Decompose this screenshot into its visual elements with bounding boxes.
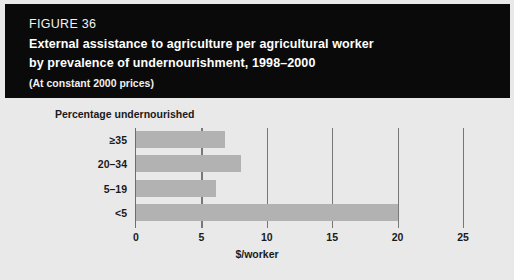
bar-category-label: 5–19 xyxy=(0,178,127,200)
figure-title-line-1: External assistance to agriculture per a… xyxy=(29,37,374,51)
figure-title-line-2: by prevalence of undernourishment, 1998–… xyxy=(29,56,315,70)
x-tick-label: 15 xyxy=(312,231,352,243)
figure-subtitle-label: (At constant 2000 prices) xyxy=(29,77,154,89)
chart-plot-area: Percentage undernourished ≥3520–345–19<5… xyxy=(0,98,514,280)
x-axis-title: $/worker xyxy=(0,248,514,260)
bar xyxy=(136,131,225,148)
bar-category-label: ≥35 xyxy=(0,129,127,151)
bar-row: 20–34 xyxy=(0,153,514,175)
bar-row: ≥35 xyxy=(0,129,514,151)
figure-container: FIGURE 36 External assistance to agricul… xyxy=(0,0,514,280)
x-tick-label: 20 xyxy=(378,231,418,243)
x-tick-label: 25 xyxy=(443,231,483,243)
figure-number-label: FIGURE 36 xyxy=(29,17,96,31)
bar xyxy=(136,180,216,197)
x-tick-label: 10 xyxy=(247,231,287,243)
bar-category-label: 20–34 xyxy=(0,153,127,175)
bar-category-label: <5 xyxy=(0,202,127,224)
bar-row: <5 xyxy=(0,202,514,224)
bar xyxy=(136,204,398,221)
x-tick-label: 0 xyxy=(116,231,156,243)
bar-row: 5–19 xyxy=(0,178,514,200)
y-axis-title: Percentage undernourished xyxy=(55,108,194,120)
bar xyxy=(136,155,241,172)
figure-header-band: FIGURE 36 External assistance to agricul… xyxy=(5,4,510,98)
x-tick-label: 5 xyxy=(181,231,221,243)
